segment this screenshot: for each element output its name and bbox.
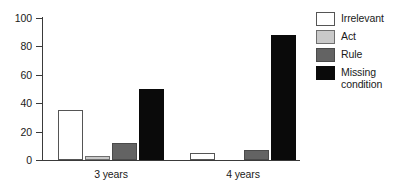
bar-3-years-act <box>85 156 110 160</box>
bar-3-years-rule <box>112 143 137 160</box>
y-axis-tick-label: 0 <box>0 155 32 166</box>
y-axis-tick-label: 60 <box>0 70 32 81</box>
legend-swatch-icon <box>316 30 335 44</box>
legend-swatch-icon <box>316 66 335 80</box>
legend-label: Rule <box>341 48 362 61</box>
bar-4-years-missing-condition <box>271 35 296 160</box>
bar-4-years-irrelevant <box>190 153 215 160</box>
y-axis-tick-label: 80 <box>0 41 32 52</box>
legend-entry-act: Act <box>316 30 400 44</box>
plot-area <box>42 18 300 160</box>
legend-entry-irrelevant: Irrelevant <box>316 12 400 26</box>
bar-4-years-rule <box>244 150 269 160</box>
legend-label: Irrelevant <box>341 12 384 25</box>
legend-entry-missing-condition: Missing condition <box>316 66 400 90</box>
chart-legend: IrrelevantActRuleMissing condition <box>316 12 400 94</box>
x-axis-line <box>42 160 300 161</box>
legend-label: Act <box>341 30 356 43</box>
y-axis-tick-label: 100 <box>0 13 32 24</box>
bar-chart: 020406080100 3 years4 years IrrelevantAc… <box>0 0 400 195</box>
bar-3-years-irrelevant <box>58 110 83 160</box>
legend-swatch-icon <box>316 12 335 26</box>
legend-swatch-icon <box>316 48 335 62</box>
x-axis-label-4-years: 4 years <box>203 168 283 180</box>
y-axis-tick-label: 40 <box>0 98 32 109</box>
legend-label: Missing condition <box>341 66 400 90</box>
legend-entry-rule: Rule <box>316 48 400 62</box>
x-axis-label-3-years: 3 years <box>71 168 151 180</box>
y-axis-tick-label: 20 <box>0 127 32 138</box>
bar-3-years-missing-condition <box>139 89 164 160</box>
